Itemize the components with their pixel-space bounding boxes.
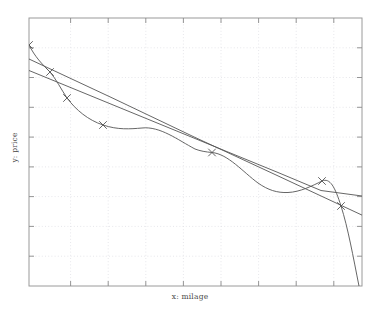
chart-canvas bbox=[0, 0, 380, 310]
plot-background bbox=[29, 18, 362, 286]
y-axis-label: y: price bbox=[10, 118, 19, 178]
chart-figure: x: milage y: price bbox=[0, 0, 380, 310]
y-axis-label-wrap: y: price bbox=[6, 0, 20, 310]
x-axis-label: x: milage bbox=[0, 292, 380, 301]
